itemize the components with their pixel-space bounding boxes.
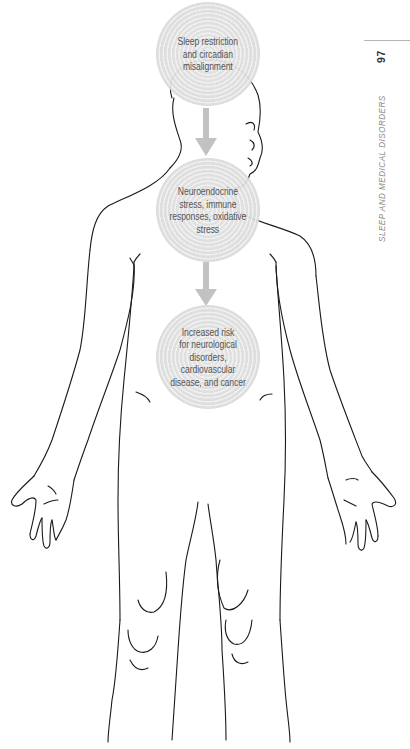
flow-step-label: Increased risk for neurological disorder… bbox=[165, 326, 250, 389]
running-head: 97 SLEEP AND MEDICAL DISORDERS bbox=[373, 50, 403, 250]
flow-step-label: Neuroendocrine stress, immune responses,… bbox=[170, 185, 247, 235]
flow-step-increased-risk: Increased risk for neurological disorder… bbox=[156, 305, 260, 409]
page-number: 97 bbox=[375, 50, 387, 63]
section-title: SLEEP AND MEDICAL DISORDERS bbox=[376, 95, 387, 242]
down-arrow-icon bbox=[194, 262, 218, 308]
book-page: Sleep restriction and circadian misalign… bbox=[0, 0, 410, 749]
flow-step-label: Sleep restriction and circadian misalign… bbox=[178, 35, 238, 73]
body-figure: Sleep restriction and circadian misalign… bbox=[0, 0, 410, 749]
flow-step-sleep-restriction: Sleep restriction and circadian misalign… bbox=[156, 2, 260, 106]
header-rule bbox=[364, 40, 410, 41]
down-arrow-icon bbox=[194, 108, 218, 158]
flow-step-stress-responses: Neuroendocrine stress, immune responses,… bbox=[156, 158, 260, 262]
